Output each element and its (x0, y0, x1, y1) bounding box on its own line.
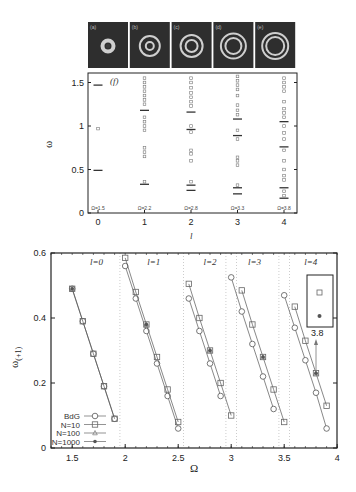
region-label-l1: l=1 (147, 257, 160, 267)
density-panels: (a)(b)(c)(d)(e) (88, 22, 295, 68)
svg-text:(a): (a) (90, 24, 96, 30)
svg-text:(c): (c) (174, 24, 180, 30)
legend-label: N=1000 (52, 438, 81, 447)
panel-image-e: (e) (255, 22, 295, 68)
top-axis-ticks: 00.511.50Ω=1.51Ω=2.22Ω=2.83Ω=3.34Ω=3.8 (71, 78, 297, 228)
svg-text:0.6: 0.6 (33, 248, 46, 258)
chart-omega-plus-one: 00.20.40.61.522.533.54 l=0l=1l=2l=3l=4 3… (8, 248, 340, 474)
series-n-10 (70, 255, 330, 425)
y-label-subscript: (+1) (14, 347, 23, 361)
bottom-x-axis-label: Ω (190, 462, 198, 474)
svg-text:0.5: 0.5 (71, 165, 84, 175)
bottom-y-axis-label: ω(+1) (8, 347, 23, 368)
svg-text:3: 3 (229, 453, 234, 463)
svg-text:(d): (d) (215, 24, 221, 30)
region-label-l3: l=3 (248, 257, 262, 267)
svg-text:(e): (e) (257, 24, 263, 30)
svg-text:4: 4 (281, 217, 286, 227)
region-label-l0: l=0 (90, 257, 104, 267)
series-n-100 (70, 286, 318, 375)
svg-text:4: 4 (335, 453, 340, 463)
svg-text:0: 0 (79, 208, 84, 218)
bottom-data-series (69, 255, 329, 431)
top-y-axis-label: ω (42, 141, 54, 148)
svg-text:0: 0 (95, 217, 100, 227)
svg-text:0.2: 0.2 (33, 378, 46, 388)
svg-text:2: 2 (188, 217, 193, 227)
svg-text:2: 2 (123, 453, 128, 463)
top-data-points (94, 75, 289, 198)
svg-text:2.5: 2.5 (172, 453, 185, 463)
panel-image-c: (c) (172, 22, 212, 68)
svg-text:3: 3 (235, 217, 240, 227)
panel-image-a: (a) (88, 22, 128, 68)
svg-text:Ω=3.8: Ω=3.8 (277, 205, 291, 211)
svg-text:1.5: 1.5 (71, 78, 84, 88)
svg-text:Ω=2.8: Ω=2.8 (184, 205, 198, 211)
svg-text:0.4: 0.4 (33, 313, 46, 323)
region-label-l4: l=4 (304, 257, 318, 267)
arrow-head-icon (314, 339, 318, 345)
inset-x-label: 3.8 (311, 328, 324, 338)
svg-text:Ω=3.3: Ω=3.3 (231, 205, 245, 211)
svg-text:1.5: 1.5 (66, 453, 79, 463)
bottom-separators (120, 253, 290, 448)
inset-filled-marker (318, 314, 322, 318)
svg-text:Ω=1.5: Ω=1.5 (91, 205, 105, 211)
svg-text:1: 1 (142, 217, 147, 227)
figure: (a)(b)(c)(d)(e) 00.511.50Ω=1.51Ω=2.22Ω=2… (0, 0, 356, 492)
legend: BdGN=10N=100N=1000 (52, 412, 106, 447)
svg-text:(b): (b) (132, 24, 138, 30)
svg-text:0: 0 (41, 443, 46, 453)
panel-label-f: (f) (110, 76, 119, 86)
region-label-l2: l=2 (203, 257, 217, 267)
panel-image-d: (d) (213, 22, 253, 68)
chart-excitation-spectrum: 00.511.50Ω=1.51Ω=2.22Ω=2.83Ω=3.34Ω=3.8 (… (42, 73, 297, 241)
svg-text:Ω=2.2: Ω=2.2 (138, 205, 152, 211)
panel-image-b: (b) (130, 22, 170, 68)
svg-text:3.5: 3.5 (278, 453, 291, 463)
svg-text:1: 1 (79, 121, 84, 131)
top-x-axis-label: l (190, 231, 193, 241)
series-bdg (69, 263, 329, 431)
